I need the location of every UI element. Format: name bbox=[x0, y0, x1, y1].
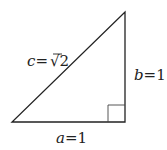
leg-a-label: a=1 bbox=[56, 129, 87, 147]
right-triangle-diagram: c=√2 b=1 a=1 bbox=[0, 0, 167, 150]
right-angle-marker bbox=[108, 105, 125, 122]
hypotenuse-label: c=√2 bbox=[27, 52, 69, 70]
leg-b-label: b=1 bbox=[134, 66, 166, 84]
